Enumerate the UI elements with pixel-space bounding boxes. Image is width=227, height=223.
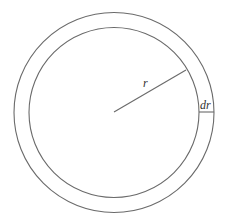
outer-circle [14, 13, 214, 213]
annulus-diagram: r dr [0, 0, 227, 223]
inner-circle [29, 28, 199, 198]
radius-label: r [143, 76, 148, 90]
thickness-label: dr [200, 98, 211, 112]
radius-line [114, 70, 186, 112]
